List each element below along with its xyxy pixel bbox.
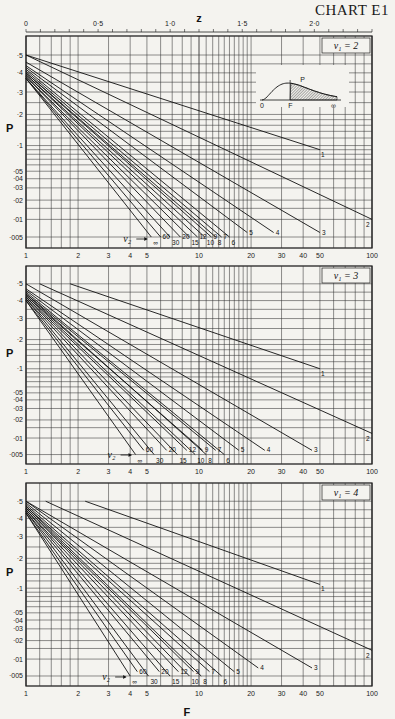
p-tick-label: ·3: [17, 315, 23, 322]
f-tick-label: 5: [145, 252, 149, 259]
curve-nu2-20: [26, 511, 159, 671]
curve-nu2-3: [26, 501, 312, 668]
curve-label: 60: [146, 446, 154, 453]
curve-label: 9: [196, 668, 200, 675]
f-tick-label: 4: [128, 468, 132, 475]
curve-nu2-10: [26, 75, 205, 237]
p-tick-label: ·5: [17, 498, 23, 505]
p-tick-label: ·02: [13, 637, 23, 644]
curve-nu2-15: [26, 510, 170, 676]
curve-label: 1: [321, 585, 325, 592]
curve-label: 12: [189, 446, 197, 453]
curve-nu2-∞: [26, 78, 151, 237]
curve-nu2-12: [26, 297, 187, 450]
p-tick-label: ·4: [17, 69, 23, 76]
p-tick-label: ·05: [13, 168, 23, 175]
p-axis-title: P: [6, 566, 13, 578]
curve-nu2-9: [26, 73, 211, 237]
f-tick-label: 100: [366, 468, 378, 475]
curve-nu2-4: [26, 66, 274, 233]
curve-label: 60: [163, 233, 171, 240]
curve-nu2-3: [26, 284, 312, 451]
p-tick-label: ·04: [13, 396, 23, 403]
p-tick-label: ·5: [17, 52, 23, 59]
nu2-label: ν₂: [102, 671, 110, 682]
f-tick-label: 2: [76, 468, 80, 475]
f-tick-label: 5: [145, 468, 149, 475]
p-tick-label: ·01: [13, 216, 23, 223]
p-tick-label: ·3: [17, 533, 23, 540]
curve-label: 9: [213, 233, 217, 240]
f-tick-label: 1: [24, 252, 28, 259]
curve-label: 4: [276, 229, 280, 236]
panel-nu1-4: ·5·4·3·2·1·05·04·03·02·01·005P1234510203…: [6, 483, 378, 697]
curve-nu2-1: [85, 501, 320, 584]
f-tick-label: 30: [278, 468, 286, 475]
panel-label: ν₁ = 3: [334, 270, 359, 281]
p-tick-label: ·03: [13, 405, 23, 412]
f-tick-label: 1: [24, 468, 28, 475]
f-tick-label: 2: [76, 252, 80, 259]
p-tick-label: ·03: [13, 625, 23, 632]
curve-label: 20: [182, 233, 190, 240]
p-tick-label: ·05: [13, 389, 23, 396]
curve-label: 7: [218, 446, 222, 453]
curve-nu2-6: [26, 505, 222, 676]
curve-nu2-20: [26, 77, 180, 237]
inset-p-label: P: [300, 76, 305, 83]
curve-label: 3: [314, 446, 318, 453]
p-tick-label: ·005: [9, 672, 23, 679]
f-axis-title: F: [183, 706, 190, 718]
f-tick-label: 3: [107, 468, 111, 475]
curve-label: 8: [208, 457, 212, 464]
f-tick-label: 100: [366, 690, 378, 697]
curve-label: 2: [366, 221, 370, 228]
panel-nu1-3: ·5·4·3·2·1·05·04·03·02·01·005P1234510203…: [6, 266, 378, 475]
p-tick-label: ·005: [9, 451, 23, 458]
curve-label: 12: [180, 668, 188, 675]
curve-label: 2: [366, 435, 370, 442]
curve-label: 1: [321, 370, 325, 377]
curve-nu2-12: [26, 510, 178, 672]
curve-label: 6: [226, 457, 230, 464]
curve-label: 1: [321, 151, 325, 158]
curve-nu2-2: [46, 501, 372, 650]
p-tick-label: ·2: [17, 111, 23, 118]
panel-label: ν₁ = 2: [334, 40, 359, 51]
p-tick-label: ·005: [9, 234, 23, 241]
z-tick-label: 0: [24, 20, 28, 27]
curve-label: 8: [203, 678, 207, 685]
f-tick-label: 4: [128, 690, 132, 697]
curve-nu2-4: [26, 289, 265, 451]
curve-label: 2: [366, 652, 370, 659]
curve-nu2-30: [26, 78, 170, 237]
curve-label: 4: [267, 446, 271, 453]
curve-label: 6: [224, 678, 228, 685]
f-tick-label: 40: [299, 468, 307, 475]
f-tick-label: 20: [247, 690, 255, 697]
inset-infinity-label: ∞: [331, 102, 336, 109]
curve-label: 7: [212, 668, 216, 675]
curve-nu2-60: [26, 78, 161, 237]
f-tick-label: 100: [366, 252, 378, 259]
f-tick-label: 20: [247, 252, 255, 259]
curve-label: 6: [231, 239, 235, 246]
p-tick-label: ·03: [13, 184, 23, 191]
f-tick-label: 3: [107, 690, 111, 697]
curve-label: 4: [260, 664, 264, 671]
z-tick-label: 0·5: [93, 20, 103, 27]
f-tick-label: 50: [316, 252, 324, 259]
curve-label: 30: [150, 678, 158, 685]
curve-label: ∞: [153, 239, 158, 246]
curve-label: 7: [224, 233, 228, 240]
f-tick-label: 40: [299, 252, 307, 259]
curve-label: 9: [205, 446, 209, 453]
inset-f-label: F: [288, 102, 292, 109]
f-tick-label: 4: [128, 252, 132, 259]
curve-label: 10: [207, 239, 215, 246]
curve-label: ∞: [132, 678, 137, 685]
p-tick-label: ·4: [17, 515, 23, 522]
p-tick-label: ·1: [17, 142, 23, 149]
panel-label: ν₁ = 4: [334, 487, 359, 498]
p-tick-label: ·01: [13, 435, 23, 442]
